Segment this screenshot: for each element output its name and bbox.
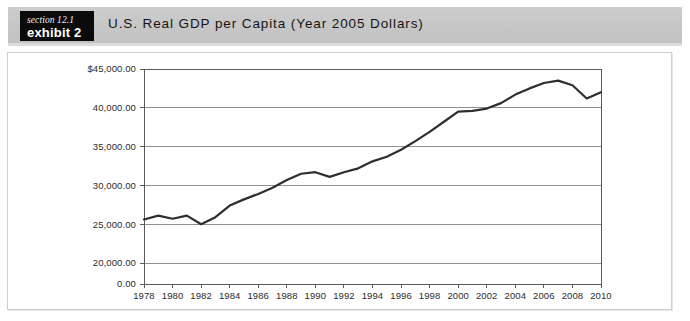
exhibit-header-band: section 12.1 exhibit 2 U.S. Real GDP per… <box>8 7 682 43</box>
y-axis-tick-label: 30,000.00 <box>93 180 136 191</box>
x-axis-tick-label: 2002 <box>476 290 498 301</box>
exhibit-title: U.S. Real GDP per Capita (Year 2005 Doll… <box>108 16 424 31</box>
exhibit-tag: section 12.1 exhibit 2 <box>20 11 94 41</box>
x-axis-tick-label: 1990 <box>305 290 327 301</box>
x-axis-tick-label: 2010 <box>590 290 612 301</box>
y-axis-tick-label: 35,000.00 <box>93 141 136 152</box>
chart-panel: $45,000.0040,000.0035,000.0030,000.0025,… <box>7 52 672 310</box>
x-axis-tick-label: 2000 <box>447 290 469 301</box>
y-axis-tick-label: 0.00 <box>117 278 136 289</box>
x-axis-tick-label: 2006 <box>533 290 555 301</box>
x-axis-tick-label: 1988 <box>276 290 298 301</box>
x-axis-tick-label: 2008 <box>562 290 584 301</box>
x-axis-tick-label: 1998 <box>419 290 441 301</box>
x-axis-tick-label: 2004 <box>505 290 527 301</box>
x-axis-tick-label: 1978 <box>133 290 155 301</box>
exhibit-number-label: exhibit 2 <box>27 26 90 40</box>
x-axis-tick-label: 1996 <box>390 290 412 301</box>
gdp-per-capita-line-chart: $45,000.0040,000.0035,000.0030,000.0025,… <box>8 53 673 311</box>
x-axis-tick-label: 1992 <box>333 290 355 301</box>
y-axis-tick-label: $45,000.00 <box>87 63 136 74</box>
y-axis-tick-label: 25,000.00 <box>93 219 136 230</box>
gdp-series-line <box>144 81 601 225</box>
plot-area: $45,000.0040,000.0035,000.0030,000.0025,… <box>8 53 673 311</box>
exhibit-container: section 12.1 exhibit 2 U.S. Real GDP per… <box>0 0 690 321</box>
x-axis-tick-label: 1984 <box>219 290 241 301</box>
x-axis-tick-label: 1994 <box>362 290 384 301</box>
x-axis-tick-label: 1982 <box>190 290 212 301</box>
x-axis-tick-label: 1986 <box>247 290 269 301</box>
y-axis-tick-label: 20,000.00 <box>93 257 136 268</box>
y-axis-tick-label: 40,000.00 <box>93 102 136 113</box>
x-axis-tick-label: 1980 <box>162 290 184 301</box>
